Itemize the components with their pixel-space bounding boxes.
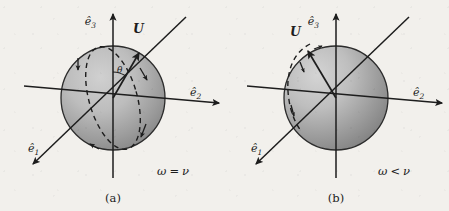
angle-label-theta-a: θ	[117, 65, 123, 75]
vector-label-U-b: U	[290, 24, 302, 39]
axis-label-e1-b-sub: 1	[258, 148, 263, 157]
axis-label-e2-b-sub: 2	[419, 92, 425, 101]
axis-label-e3-a: ê3	[85, 15, 97, 30]
axis-label-e1-b: ê1	[251, 142, 262, 157]
vector-label-U-a: U	[133, 21, 145, 36]
axis-label-e3-b: ê3	[308, 15, 320, 30]
figure-container: ê3 ê2 ê1 U θ ω=ν (a)	[0, 0, 449, 211]
condition-nu-b: ν	[403, 164, 410, 178]
axis-label-e1-a: ê1	[28, 142, 39, 157]
condition-omega-b: ω	[378, 164, 388, 178]
axis-label-e3-b-sub: 3	[314, 21, 319, 30]
condition-omega-a: ω	[157, 164, 167, 178]
axis-label-e2-b: ê2	[413, 86, 425, 101]
panel-b: ê3 ê2 ê1 U ω<ν (b)	[247, 14, 442, 205]
axis-label-e3-a-sub: 3	[91, 21, 96, 30]
precession-diagram: ê3 ê2 ê1 U θ ω=ν (a)	[0, 0, 449, 211]
condition-label-b: ω<ν	[378, 164, 410, 178]
condition-label-a: ω=ν	[157, 164, 189, 178]
caption-a: (a)	[105, 191, 121, 205]
axis-label-e1-a-sub: 1	[35, 148, 40, 157]
caption-b: (b)	[328, 191, 344, 205]
condition-relation-b: <	[390, 164, 400, 178]
axis-label-e2-a-sub: 2	[196, 92, 202, 101]
condition-nu-a: ν	[182, 164, 189, 178]
axis-label-e2-a: ê2	[190, 86, 202, 101]
condition-relation-a: =	[169, 164, 179, 178]
panel-a: ê3 ê2 ê1 U θ ω=ν (a)	[24, 14, 219, 205]
